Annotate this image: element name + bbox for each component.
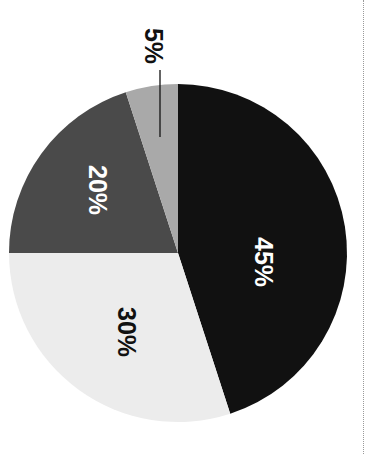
label-30pct: 30% (113, 307, 141, 357)
label-20pct: 20% (84, 165, 112, 215)
label-45pct: 45% (250, 237, 278, 287)
label-5pct: 5% (140, 28, 168, 64)
pie-chart: 45% 30% 20% 5% (0, 0, 372, 454)
dotted-divider (363, 0, 364, 454)
pie-slices (9, 84, 347, 422)
